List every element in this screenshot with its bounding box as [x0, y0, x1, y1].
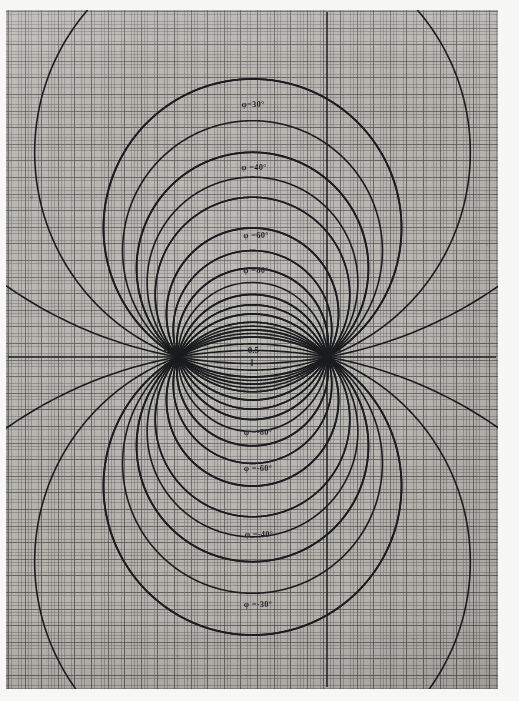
arc-phi--160	[35, 10, 471, 370]
curve-label-phi-30: φ=30°	[241, 99, 264, 109]
curve-label-phi-60: φ =60°	[243, 230, 268, 240]
x-tick-label-minus-1: -1	[163, 345, 171, 355]
x-tick-label-zero: 0	[336, 345, 341, 355]
curve-label-phi-m30: φ =-30°	[244, 599, 272, 609]
curve-label-phi-m60: φ =-60°	[244, 463, 272, 473]
curve-label-phi-80: φ =80°	[243, 265, 268, 275]
curve-label-phi-m40: φ =-40°	[245, 529, 273, 539]
figure-page: -1 -0.5 0 φ=30° φ =40° φ =60° φ =80° φ =…	[0, 0, 519, 701]
x-tick-label-minus-0-5: -0.5	[245, 345, 259, 355]
curve-label-phi-m80: φ =-80°	[244, 427, 272, 437]
curve-label-phi-40: φ =40°	[241, 162, 266, 172]
